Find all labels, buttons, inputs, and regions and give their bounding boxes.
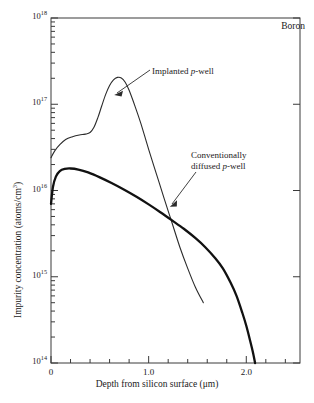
curve-implanted-p-well (51, 77, 203, 303)
data-series-group (51, 77, 255, 363)
arrowhead-diffused (170, 200, 177, 207)
leader-line-implanted (117, 70, 150, 93)
y-axis-tick-label: 1014 (16, 357, 47, 367)
x-axis-tick-label: 1.0 (129, 367, 169, 377)
x-axis-ticks (51, 356, 285, 363)
y-axis-tick-label: 1018 (16, 12, 47, 22)
x-axis-tick-label: 2.0 (226, 367, 266, 377)
y-tick-mantissa: 10 (32, 97, 41, 107)
y-axis-tick-label: 1015 (16, 271, 47, 281)
annotation-diffused-line1: Conventionally (191, 150, 247, 160)
y-tick-mantissa: 10 (32, 11, 41, 21)
x-axis-tick-label: 0 (31, 367, 71, 377)
annotation-diffused-line2-suffix: -well (227, 161, 246, 171)
chart-canvas (0, 0, 314, 403)
y-tick-mantissa: 10 (32, 270, 41, 280)
annotation-implanted-p-well: Implanted p-well (152, 66, 214, 76)
annotation-implanted-suffix: -well (195, 66, 214, 76)
y-axis-title-main: Impurity concentration (atoms/cm (13, 188, 23, 318)
annotation-conventionally-diffused-p-well: Conventionally diffused p-well (191, 150, 247, 173)
y-tick-mantissa: 10 (32, 356, 41, 366)
y-tick-exponent: 17 (41, 95, 47, 102)
annotation-diffused-line2-prefix: diffused (191, 161, 223, 171)
y-tick-exponent: 15 (41, 268, 47, 275)
annotation-implanted-prefix: Implanted (152, 66, 191, 76)
y-tick-exponent: 18 (41, 9, 47, 16)
y-axis-title: Impurity concentration (atoms/cm3) (13, 182, 24, 318)
species-label: Boron (281, 21, 305, 32)
leader-line-diffused (172, 172, 196, 204)
y-tick-mantissa: 10 (32, 184, 41, 194)
annotation-leader-lines (114, 70, 196, 207)
curve-conventionally-diffused-p-well (51, 168, 255, 363)
y-axis-tick-label: 1016 (16, 185, 47, 195)
y-tick-exponent: 14 (41, 354, 47, 361)
y-axis-tick-label: 1017 (16, 98, 47, 108)
impurity-concentration-chart: Boron Implanted p-well Conventionally di… (0, 0, 314, 403)
x-axis-title: Depth from silicon surface (μm) (0, 379, 314, 390)
y-tick-exponent: 16 (41, 182, 47, 189)
